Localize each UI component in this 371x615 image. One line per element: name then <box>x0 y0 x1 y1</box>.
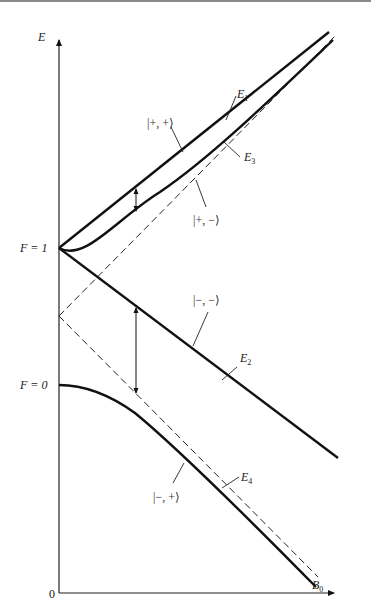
state-label-plus-plus: |+, +⟩ <box>147 116 174 130</box>
y-axis-label: E <box>37 30 46 44</box>
e1-sub: 1 <box>244 94 248 103</box>
energy-diagram: E 0 B0 F = 1 F = 0 |+, +⟩ |+, −⟩ |−, −⟩ … <box>0 0 371 615</box>
curve-e2 <box>59 248 338 458</box>
energy-label-e1: E1 <box>236 87 248 103</box>
x-axis-label-sub: 0 <box>319 585 323 594</box>
level-label-f1: F = 1 <box>19 241 47 255</box>
e3-sub: 3 <box>251 157 255 166</box>
state-label-minus-minus: |−, −⟩ <box>193 293 220 307</box>
curve-e4 <box>59 385 316 587</box>
leader-plus-minus <box>196 180 206 207</box>
e4-sub: 4 <box>248 477 252 486</box>
energy-label-e3: E3 <box>243 150 255 166</box>
leader-plus-plus <box>171 127 183 152</box>
level-label-f0: F = 0 <box>19 378 47 392</box>
energy-label-e4: E4 <box>240 470 252 486</box>
energy-label-e2: E2 <box>239 351 251 367</box>
state-label-plus-minus: |+, −⟩ <box>193 213 220 227</box>
leader-minus-minus <box>193 312 208 346</box>
origin-label: 0 <box>49 587 55 601</box>
leader-e3 <box>224 142 240 157</box>
e2-sub: 2 <box>247 358 251 367</box>
dashed-asymptote-falling <box>59 316 318 577</box>
leader-minus-plus <box>173 463 184 483</box>
state-label-minus-plus: |−, +⟩ <box>153 490 180 504</box>
